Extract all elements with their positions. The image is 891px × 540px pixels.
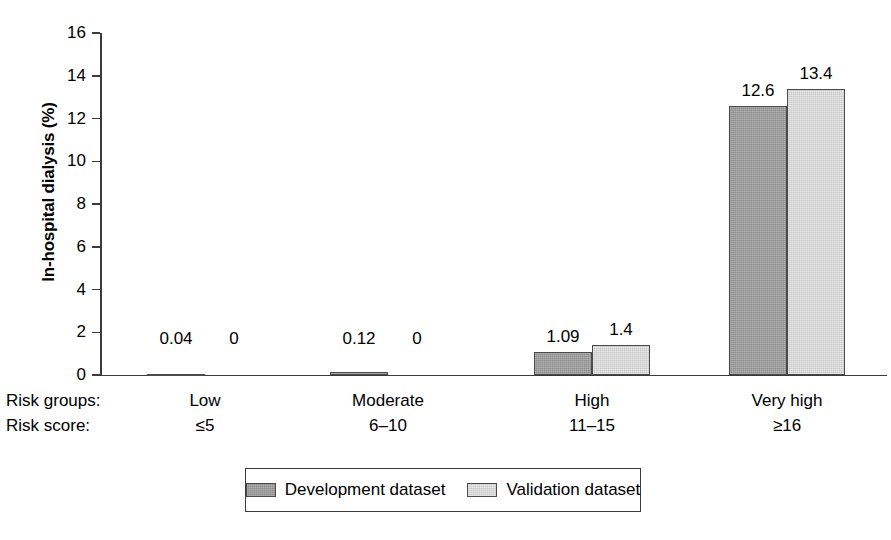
risk-score-label-very-high: ≥16 — [692, 417, 882, 435]
bar-value-high-validation: 1.4 — [578, 321, 664, 339]
y-tick-12 — [92, 118, 100, 120]
risk-score-label-high: 11–15 — [497, 417, 687, 435]
risk-score-label-moderate: 6–10 — [293, 417, 483, 435]
y-tick-label-12: 12 — [46, 110, 86, 127]
bar-high-validation — [592, 345, 650, 375]
y-tick-14 — [92, 75, 100, 77]
y-tick-4 — [92, 289, 100, 291]
bar-moderate-development — [330, 372, 388, 375]
y-tick-label-4: 4 — [46, 281, 86, 298]
legend-swatch-development — [246, 483, 276, 497]
y-tick-label-10: 10 — [46, 152, 86, 169]
legend-item-validation: Validation dataset — [467, 481, 640, 499]
category-label-very-high: Very high — [692, 392, 882, 410]
y-tick-8 — [92, 203, 100, 205]
bar-chart: In-hospital dialysis (%) 1614121086420 0… — [0, 0, 891, 540]
y-tick-2 — [92, 332, 100, 334]
y-tick-10 — [92, 161, 100, 163]
y-tick-16 — [92, 32, 100, 34]
y-tick-label-2: 2 — [46, 323, 86, 340]
bar-high-development — [534, 352, 592, 375]
legend-label-development: Development dataset — [285, 481, 446, 499]
y-axis-line — [100, 33, 102, 375]
legend-item-development: Development dataset — [246, 481, 446, 499]
y-tick-label-16: 16 — [46, 24, 86, 41]
category-label-high: High — [497, 392, 687, 410]
legend-swatch-validation — [467, 483, 497, 497]
bar-very-high-validation — [787, 89, 845, 375]
risk-score-row-label: Risk score: — [6, 417, 90, 435]
risk-score-label-low: ≤5 — [110, 417, 300, 435]
category-label-moderate: Moderate — [293, 392, 483, 410]
y-tick-label-0: 0 — [46, 366, 86, 383]
y-tick-0 — [92, 374, 100, 376]
category-label-low: Low — [110, 392, 300, 410]
y-tick-label-8: 8 — [46, 195, 86, 212]
legend-label-validation: Validation dataset — [506, 481, 640, 499]
legend: Development dataset Validation dataset — [245, 468, 641, 512]
y-tick-6 — [92, 246, 100, 248]
y-tick-label-6: 6 — [46, 238, 86, 255]
y-tick-label-14: 14 — [46, 67, 86, 84]
risk-groups-row-label: Risk groups: — [6, 392, 100, 410]
bar-value-low-validation: 0 — [191, 330, 277, 348]
bar-value-very-high-validation: 13.4 — [773, 65, 859, 83]
bar-value-moderate-validation: 0 — [374, 330, 460, 348]
bar-low-development — [147, 374, 205, 376]
bar-very-high-development — [729, 106, 787, 375]
